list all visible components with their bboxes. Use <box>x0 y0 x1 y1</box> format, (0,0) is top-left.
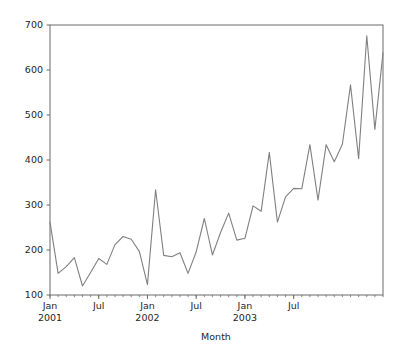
y-tick-label: 100 <box>25 289 43 300</box>
x-tick-label: Jul <box>92 300 104 311</box>
y-tick-label: 500 <box>25 109 43 120</box>
y-axis-ticks: 100200300400500600700 <box>25 19 50 300</box>
y-tick-label: 200 <box>25 244 43 255</box>
chart-figure: 100200300400500600700 Jan2001JulJan2002J… <box>0 0 404 354</box>
x-tick-label: Jul <box>287 300 299 311</box>
x-tick-label: Jan2002 <box>135 300 159 323</box>
y-tick-label: 300 <box>25 199 43 210</box>
x-axis-title: Month <box>201 331 231 342</box>
y-tick-label: 400 <box>25 154 43 165</box>
x-tick-label: Jan2001 <box>38 300 62 323</box>
x-tick-label: Jul <box>189 300 201 311</box>
x-tick-label: Jan2003 <box>233 300 257 323</box>
y-tick-label: 700 <box>25 19 43 30</box>
x-axis-ticks: Jan2001JulJan2002JulJan2003Jul <box>38 295 299 323</box>
line-chart-canvas: 100200300400500600700 Jan2001JulJan2002J… <box>0 0 404 354</box>
y-tick-label: 600 <box>25 64 43 75</box>
